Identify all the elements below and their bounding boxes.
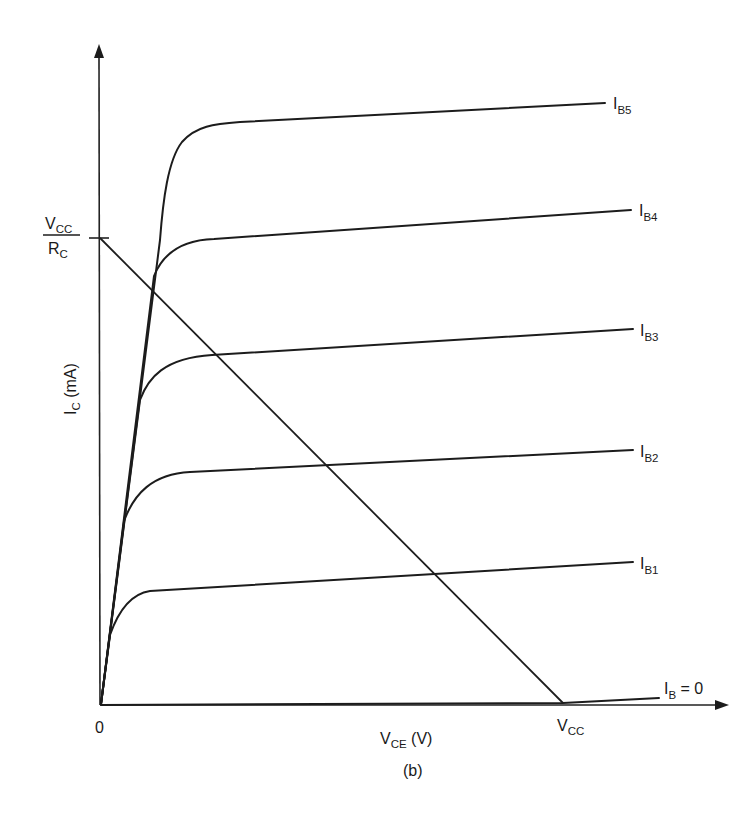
curve-ib4 — [101, 210, 631, 704]
x-axis-arrow-icon — [715, 700, 729, 710]
origin-label: 0 — [95, 719, 104, 736]
y-axis-arrow-icon — [94, 44, 104, 58]
label-ib1: IB1 — [640, 555, 659, 576]
y-axis-label: IC (mA) — [62, 363, 82, 415]
label-ib0: IB = 0 — [664, 680, 703, 701]
curve-ib1 — [101, 562, 633, 704]
curve-ib5 — [101, 103, 605, 704]
label-ib3: IB3 — [640, 322, 659, 343]
svg-text:RC: RC — [48, 240, 68, 260]
svg-text:VCC: VCC — [45, 215, 72, 235]
x-axis-label: VCE (V) — [380, 730, 432, 750]
figure-caption: (b) — [403, 762, 423, 779]
label-ib5: IB5 — [613, 95, 632, 116]
y-intercept-label: VCC RC — [43, 215, 80, 260]
curve-ib0 — [101, 698, 659, 705]
characteristics-figure: IB5 IB4 IB3 IB2 IB1 IB = 0 VCC RC IC (mA… — [0, 0, 751, 814]
label-ib2: IB2 — [640, 443, 659, 464]
x-intercept-label: VCC — [557, 717, 584, 737]
label-ib4: IB4 — [639, 202, 658, 223]
curve-ib3 — [101, 329, 633, 704]
y-axis — [89, 44, 109, 705]
load-line — [100, 238, 563, 703]
